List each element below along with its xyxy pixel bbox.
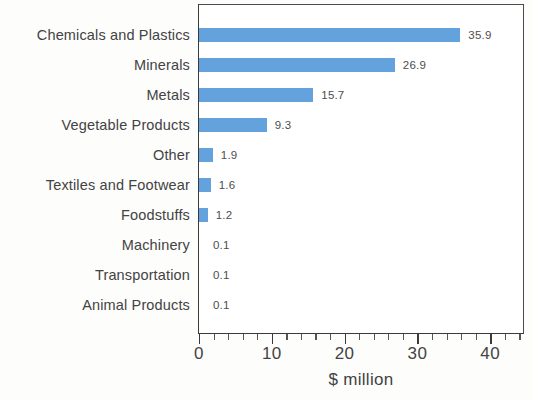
- bar: [199, 148, 213, 162]
- category-label: Foodstuffs: [121, 200, 190, 230]
- x-tick-label: 0: [174, 344, 224, 364]
- bar-row: Foodstuffs1.2: [0, 200, 533, 230]
- x-tick-major: [345, 334, 346, 344]
- bar: [199, 178, 211, 192]
- bar: [199, 88, 313, 102]
- bar-chart: Chemicals and Plastics35.9Minerals26.9Me…: [0, 0, 533, 400]
- bar-row: Vegetable Products9.3: [0, 110, 533, 140]
- x-tick-label: 10: [247, 344, 297, 364]
- x-tick-minor: [286, 334, 287, 340]
- category-label: Machinery: [122, 230, 190, 260]
- bar-value-label: 0.1: [213, 260, 230, 290]
- bar-row: Textiles and Footwear1.6: [0, 170, 533, 200]
- category-label: Textiles and Footwear: [46, 170, 190, 200]
- x-tick-minor: [403, 334, 404, 340]
- category-label: Minerals: [134, 50, 190, 80]
- bar-value-label: 0.1: [213, 230, 230, 260]
- x-tick-minor: [243, 334, 244, 340]
- bar: [199, 208, 208, 222]
- bar-row: Metals15.7: [0, 80, 533, 110]
- bar-value-label: 1.9: [221, 140, 238, 170]
- x-tick-label: 40: [465, 344, 515, 364]
- bar-row: Transportation0.1: [0, 260, 533, 290]
- x-tick-minor: [330, 334, 331, 340]
- category-label: Metals: [146, 80, 190, 110]
- x-tick-minor: [461, 334, 462, 340]
- bar: [199, 28, 460, 42]
- category-label: Other: [153, 140, 190, 170]
- bar-value-label: 1.6: [219, 170, 236, 200]
- x-axis-tick-labels: 010203040: [0, 344, 533, 368]
- x-tick-minor: [359, 334, 360, 340]
- x-tick-minor: [476, 334, 477, 340]
- bar-row: Chemicals and Plastics35.9: [0, 20, 533, 50]
- x-tick-major: [417, 334, 418, 344]
- x-axis-title: $ million: [198, 370, 524, 390]
- bar-value-label: 35.9: [468, 20, 491, 50]
- x-tick-minor: [505, 334, 506, 340]
- bar-row: Animal Products0.1: [0, 290, 533, 320]
- x-tick-major: [199, 334, 200, 344]
- x-tick-label: 20: [320, 344, 370, 364]
- bar-value-label: 9.3: [275, 110, 292, 140]
- x-tick-minor: [447, 334, 448, 340]
- category-label: Chemicals and Plastics: [37, 20, 190, 50]
- x-tick-major: [272, 334, 273, 344]
- bar-row: Machinery0.1: [0, 230, 533, 260]
- x-tick-minor: [519, 334, 520, 340]
- bar: [199, 118, 267, 132]
- x-tick-minor: [214, 334, 215, 340]
- x-tick-major: [490, 334, 491, 344]
- x-tick-minor: [315, 334, 316, 340]
- x-tick-minor: [301, 334, 302, 340]
- bar: [199, 58, 395, 72]
- x-tick-minor: [374, 334, 375, 340]
- bar-value-label: 1.2: [216, 200, 233, 230]
- bar-value-label: 15.7: [321, 80, 344, 110]
- x-tick-minor: [388, 334, 389, 340]
- x-tick-minor: [257, 334, 258, 340]
- bar-row: Minerals26.9: [0, 50, 533, 80]
- x-tick-minor: [432, 334, 433, 340]
- bar-value-label: 26.9: [403, 50, 426, 80]
- bar-row: Other1.9: [0, 140, 533, 170]
- category-label: Animal Products: [82, 290, 190, 320]
- x-tick-minor: [228, 334, 229, 340]
- x-tick-label: 30: [392, 344, 442, 364]
- bar-value-label: 0.1: [213, 290, 230, 320]
- category-label: Transportation: [95, 260, 190, 290]
- category-label: Vegetable Products: [62, 110, 190, 140]
- chart-bars-group: Chemicals and Plastics35.9Minerals26.9Me…: [0, 4, 533, 334]
